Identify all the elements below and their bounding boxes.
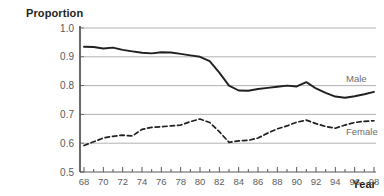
x-tick-label: 84 (233, 176, 244, 187)
series-line-female (84, 119, 374, 145)
y-tick-label: 0.5 (60, 167, 74, 178)
x-tick-label: 74 (137, 176, 148, 187)
x-tick-label: 86 (253, 176, 264, 187)
x-tick-label: 72 (117, 176, 128, 187)
x-axis-tick-labels: 68707274767880828486889092949698 (79, 176, 380, 187)
y-tick-label: 0.6 (60, 138, 74, 149)
series-line-male (84, 47, 374, 98)
x-tick-label: 92 (311, 176, 322, 187)
y-tick-label: 0.9 (60, 51, 74, 62)
y-tick-label: 0.8 (60, 80, 74, 91)
line-chart-plot: 0.50.60.70.80.91.0 687072747678808284868… (0, 0, 384, 196)
x-tick-label: 88 (272, 176, 283, 187)
x-tick-label: 94 (330, 176, 341, 187)
series-labels: MaleFemale (346, 73, 378, 137)
x-tick-label: 90 (291, 176, 302, 187)
x-tick-label: 78 (175, 176, 186, 187)
chart-container: Proportion Year 0.50.60.70.80.91.0 68707… (0, 0, 384, 196)
x-tick-label: 80 (195, 176, 206, 187)
x-tick-label: 76 (156, 176, 167, 187)
series-label-female: Female (346, 126, 378, 137)
y-tick-label: 0.7 (60, 109, 74, 120)
x-tick-label: 96 (349, 176, 360, 187)
axis-lines (80, 26, 376, 172)
series-label-male: Male (346, 73, 367, 84)
x-tick-label: 70 (98, 176, 109, 187)
x-tick-label: 98 (369, 176, 380, 187)
x-tick-label: 82 (214, 176, 225, 187)
y-tick-label: 1.0 (60, 23, 74, 34)
data-series (84, 47, 374, 146)
x-tick-label: 68 (79, 176, 90, 187)
